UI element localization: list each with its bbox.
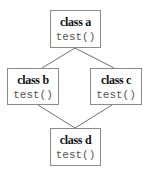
class-name: class d <box>51 133 100 147</box>
class-node-b: class b test() <box>7 68 59 105</box>
method-name: test() <box>91 88 141 102</box>
method-name: test() <box>51 30 100 44</box>
class-node-d: class d test() <box>50 128 101 166</box>
method-name: test() <box>51 148 100 162</box>
diamond-inheritance-diagram: class a test() class b test() class c te… <box>0 0 150 176</box>
class-node-a: class a test() <box>50 10 101 48</box>
class-name: class c <box>91 73 141 87</box>
class-name: class b <box>8 73 58 87</box>
method-name: test() <box>8 88 58 102</box>
edge-c-d <box>75 105 112 128</box>
edge-a-c <box>75 48 114 68</box>
edge-b-d <box>38 105 75 128</box>
class-node-c: class c test() <box>90 68 142 105</box>
edge-a-b <box>42 48 75 68</box>
class-name: class a <box>51 15 100 29</box>
